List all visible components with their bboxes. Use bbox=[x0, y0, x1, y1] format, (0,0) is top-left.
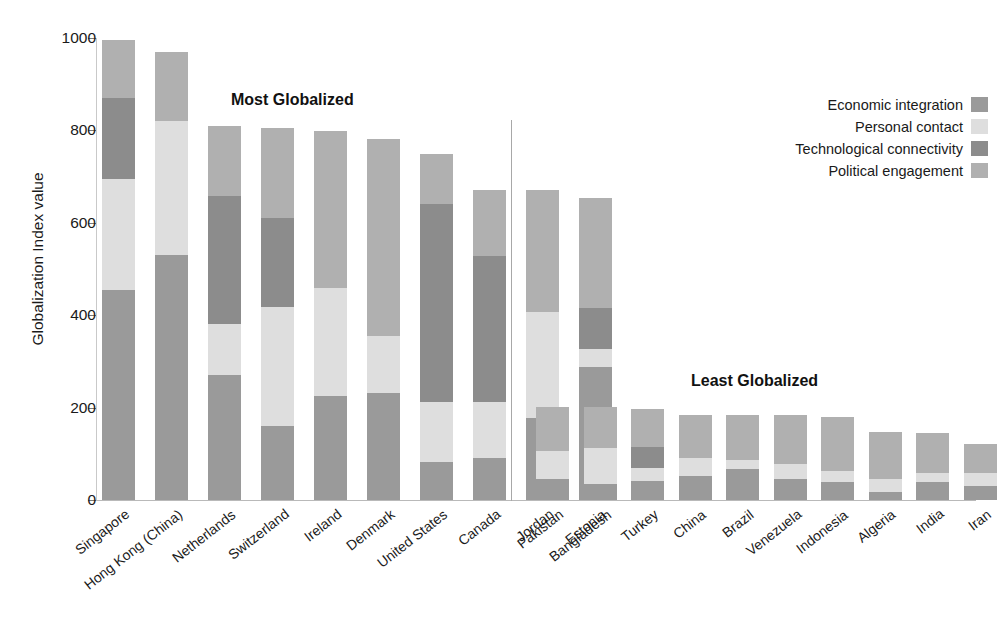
bar-bangladesh[interactable] bbox=[584, 407, 617, 500]
bar-segment-political-engagement bbox=[102, 40, 135, 98]
bar-united-states[interactable] bbox=[420, 154, 453, 500]
bar-india[interactable] bbox=[916, 433, 949, 500]
bar-china[interactable] bbox=[679, 415, 712, 500]
bar-netherlands[interactable] bbox=[208, 126, 241, 500]
bar-segment-technological-connectivity bbox=[102, 98, 135, 179]
y-axis-tick-label: 200 bbox=[44, 400, 96, 416]
legend-item[interactable]: Political engagement bbox=[770, 160, 988, 181]
bar-segment-political-engagement bbox=[579, 198, 612, 308]
bar-segment-economic-integration bbox=[420, 462, 453, 500]
bar-canada[interactable] bbox=[473, 190, 506, 500]
bar-segment-economic-integration bbox=[208, 375, 241, 500]
bar-segment-economic-integration bbox=[536, 479, 569, 500]
bar-venezuela[interactable] bbox=[774, 415, 807, 500]
legend-swatch-icon bbox=[971, 141, 988, 156]
annotation-least-globalized: Least Globalized bbox=[691, 372, 818, 390]
bar-segment-political-engagement bbox=[208, 126, 241, 196]
bar-segment-economic-integration bbox=[916, 482, 949, 500]
legend-label: Economic integration bbox=[828, 97, 963, 113]
bar-segment-political-engagement bbox=[367, 139, 400, 337]
bar-iran[interactable] bbox=[964, 444, 997, 500]
bar-segment-political-engagement bbox=[821, 417, 854, 471]
y-axis-tick-label: 1000 bbox=[44, 30, 96, 46]
y-axis-tick-label: 400 bbox=[44, 307, 96, 323]
bar-brazil[interactable] bbox=[726, 415, 759, 500]
bar-segment-economic-integration bbox=[821, 482, 854, 500]
bar-segment-political-engagement bbox=[916, 433, 949, 474]
bar-segment-personal-contact bbox=[774, 464, 807, 480]
bar-segment-economic-integration bbox=[869, 492, 902, 500]
bar-segment-political-engagement bbox=[631, 409, 664, 448]
bar-segment-personal-contact bbox=[964, 473, 997, 486]
legend-label: Personal contact bbox=[855, 119, 963, 135]
bar-segment-personal-contact bbox=[367, 336, 400, 392]
legend-label: Political engagement bbox=[828, 163, 963, 179]
bar-segment-personal-contact bbox=[536, 451, 569, 480]
legend-swatch-icon bbox=[971, 97, 988, 112]
bar-segment-political-engagement bbox=[584, 407, 617, 448]
group-divider-line bbox=[511, 120, 512, 501]
y-axis-tick-label: 0 bbox=[44, 492, 96, 508]
bar-segment-personal-contact bbox=[726, 460, 759, 468]
bar-segment-personal-contact bbox=[102, 179, 135, 290]
bar-segment-technological-connectivity bbox=[579, 308, 612, 350]
bar-segment-economic-integration bbox=[726, 469, 759, 500]
bar-segment-economic-integration bbox=[155, 255, 188, 500]
bar-switzerland[interactable] bbox=[261, 128, 294, 500]
bar-segment-economic-integration bbox=[964, 486, 997, 500]
bar-indonesia[interactable] bbox=[821, 417, 854, 500]
bar-denmark[interactable] bbox=[367, 139, 400, 500]
bar-segment-political-engagement bbox=[774, 415, 807, 463]
bar-segment-personal-contact bbox=[584, 448, 617, 484]
legend-swatch-icon bbox=[971, 163, 988, 178]
bar-segment-personal-contact bbox=[473, 402, 506, 458]
bar-segment-technological-connectivity bbox=[473, 256, 506, 402]
bar-hong-kong-china[interactable] bbox=[155, 52, 188, 500]
bar-ireland[interactable] bbox=[314, 131, 347, 500]
bar-segment-political-engagement bbox=[420, 154, 453, 205]
bar-segment-economic-integration bbox=[774, 479, 807, 500]
bar-segment-personal-contact bbox=[526, 312, 559, 417]
bar-segment-economic-integration bbox=[314, 396, 347, 500]
legend-label: Technological connectivity bbox=[795, 141, 963, 157]
bar-segment-political-engagement bbox=[526, 190, 559, 312]
bar-segment-economic-integration bbox=[473, 458, 506, 500]
legend-item[interactable]: Personal contact bbox=[770, 116, 988, 137]
bar-segment-technological-connectivity bbox=[631, 447, 664, 467]
bar-segment-political-engagement bbox=[964, 444, 997, 474]
bar-segment-technological-connectivity bbox=[420, 204, 453, 402]
legend-item[interactable]: Economic integration bbox=[770, 94, 988, 115]
y-axis-tick-label: 800 bbox=[44, 123, 96, 139]
bar-segment-personal-contact bbox=[916, 473, 949, 481]
bar-segment-personal-contact bbox=[579, 349, 612, 367]
bar-segment-personal-contact bbox=[821, 471, 854, 481]
x-axis-baseline bbox=[96, 500, 976, 501]
chart-legend: Economic integrationPersonal contactTech… bbox=[770, 94, 988, 182]
bar-segment-political-engagement bbox=[869, 432, 902, 479]
legend-item[interactable]: Technological connectivity bbox=[770, 138, 988, 159]
bar-segment-personal-contact bbox=[261, 307, 294, 426]
bar-segment-economic-integration bbox=[261, 426, 294, 500]
bar-segment-personal-contact bbox=[631, 468, 664, 481]
bar-segment-economic-integration bbox=[631, 481, 664, 500]
bar-segment-political-engagement bbox=[314, 131, 347, 287]
bar-pakistan[interactable] bbox=[536, 407, 569, 500]
legend-swatch-icon bbox=[971, 119, 988, 134]
bar-segment-economic-integration bbox=[679, 476, 712, 500]
bar-segment-personal-contact bbox=[420, 402, 453, 462]
bar-singapore[interactable] bbox=[102, 40, 135, 500]
bar-segment-political-engagement bbox=[473, 190, 506, 257]
bar-segment-political-engagement bbox=[261, 128, 294, 218]
bar-segment-technological-connectivity bbox=[261, 218, 294, 307]
bar-segment-personal-contact bbox=[869, 479, 902, 492]
bar-segment-economic-integration bbox=[367, 393, 400, 500]
bar-segment-technological-connectivity bbox=[208, 196, 241, 323]
y-axis-tick-label: 600 bbox=[44, 215, 96, 231]
bar-algeria[interactable] bbox=[869, 432, 902, 500]
bar-segment-personal-contact bbox=[314, 288, 347, 397]
bar-segment-economic-integration bbox=[102, 290, 135, 500]
bar-segment-political-engagement bbox=[726, 415, 759, 460]
bar-turkey[interactable] bbox=[631, 409, 664, 500]
bar-segment-political-engagement bbox=[155, 52, 188, 121]
